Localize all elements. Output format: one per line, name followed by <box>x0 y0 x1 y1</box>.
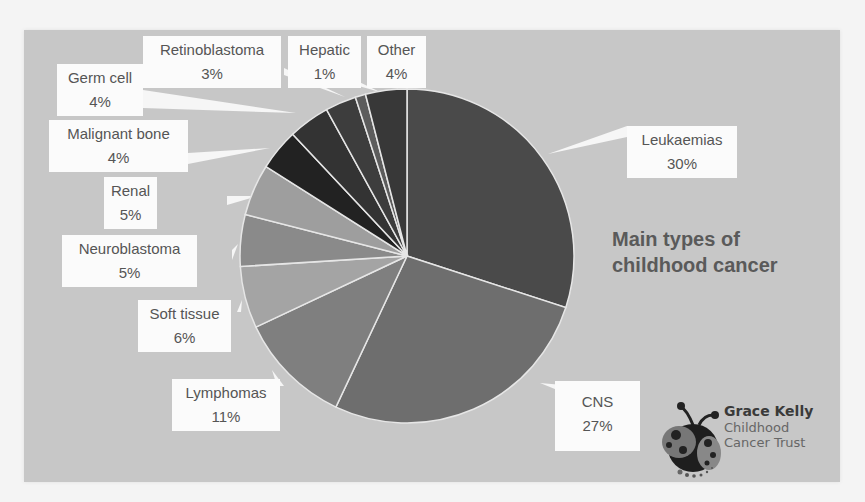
label-other: Other 4% <box>367 36 426 88</box>
label-retinoblastoma: Retinoblastoma 3% <box>143 36 281 88</box>
logo-text: Grace Kelly Childhood Cancer Trust <box>724 403 813 450</box>
label-hepatic: Hepatic 1% <box>288 36 361 88</box>
label-neuroblastoma: Neuroblastoma 5% <box>62 235 197 287</box>
label-germ-cell: Germ cell 4% <box>57 64 143 116</box>
label-leukaemias: Leukaemias 30% <box>627 126 737 178</box>
label-lymphomas: Lymphomas 11% <box>172 379 280 431</box>
pie-slices <box>240 89 574 423</box>
label-cns: CNS 27% <box>555 381 640 451</box>
label-soft-tissue: Soft tissue 6% <box>138 300 231 352</box>
label-renal: Renal 5% <box>104 177 157 229</box>
label-malignant-bone: Malignant bone 4% <box>49 120 188 172</box>
chart-title: Main types of childhood cancer <box>612 226 778 278</box>
